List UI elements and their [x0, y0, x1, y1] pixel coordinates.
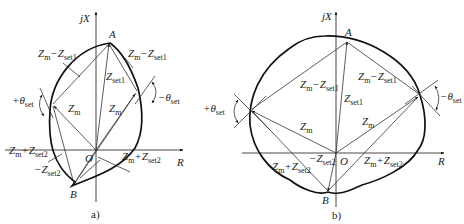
impedance-diagrams: jX R O A B Zm−Zset1 Zm−Zset: [0, 0, 464, 224]
minus-theta-arc: [435, 86, 439, 110]
zm-right-vector: [336, 97, 418, 153]
label-zm-plus-zset2-left: Zm+Zset2: [9, 144, 48, 159]
caption-b: b): [332, 209, 342, 222]
caption-a: a): [91, 208, 100, 221]
axis-jx-label: jX: [78, 12, 91, 24]
point-b-label: B: [322, 194, 329, 206]
label-zm-left: Zm: [300, 120, 313, 135]
point-b-label: B: [70, 188, 77, 200]
label-zm-plus-zset2-right: Zm+Zset2: [122, 150, 161, 165]
zm-plus-zset2-right: [328, 98, 417, 191]
zm-left-vector: [252, 111, 336, 153]
label-zset1: Zset1: [106, 70, 125, 85]
axis-r-label: R: [437, 155, 445, 167]
label-plus-theta: +θset: [203, 102, 225, 117]
point-a-label: A: [108, 28, 116, 40]
origin-label: O: [340, 155, 348, 167]
label-plus-theta: +θset: [12, 94, 34, 109]
axis-r-label: R: [176, 156, 184, 168]
label-zm-right: Zm: [109, 102, 122, 117]
label-zset1: Zset1: [344, 92, 363, 107]
label-zm-minus-zset1-right: Zm−Zset1: [358, 70, 397, 85]
label-minus-theta: −θset: [440, 90, 462, 105]
label-zm-right: Zm: [362, 115, 375, 130]
label-zm-minus-zset1-left: Zm−Zset1: [300, 78, 339, 93]
theta-right-tangent-2: [412, 86, 440, 116]
label-minus-zset2: −Zset2: [34, 163, 60, 178]
label-zm-plus-zset2-right: Zm+Zset2: [364, 154, 403, 169]
point-a-label: A: [344, 26, 352, 38]
label-zm-left: Zm: [68, 102, 81, 117]
label-minus-zset2: −Zset2: [309, 152, 335, 167]
label-zm-minus-zset1-right: Zm−Zset1: [128, 47, 167, 62]
plus-theta-arc: [39, 95, 44, 116]
label-minus-theta: −θset: [158, 91, 180, 106]
figure-a: jX R O A B Zm−Zset1 Zm−Zset: [5, 12, 184, 221]
zm-minus-zset1-right: [347, 42, 419, 94]
figure-b: jX R O A B Zm−Zset1 Zm−Zset1 Zset1: [203, 10, 462, 222]
minus-theta-arc: [152, 82, 156, 103]
zm-minus-zset1-left: [252, 42, 347, 109]
plus-theta-arc: [234, 100, 238, 123]
label-zm-plus-zset2-left: Zm+Zset2: [272, 160, 311, 175]
label-zm-minus-zset1-left: Zm−Zset1: [38, 47, 77, 62]
axis-jx-label: jX: [320, 10, 333, 22]
